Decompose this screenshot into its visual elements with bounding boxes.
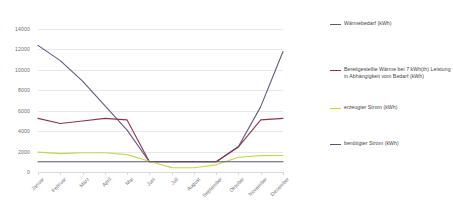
- legend-entry[interactable]: erzeugter Strom (kWh): [330, 104, 452, 111]
- y-axis-tick-label: 10000: [0, 67, 30, 73]
- y-axis-tick-label: 2000: [0, 149, 30, 155]
- legend-color-swatch: [330, 70, 341, 71]
- x-axis-tick: [216, 172, 217, 175]
- x-axis-tick: [149, 172, 150, 175]
- x-axis-tick: [261, 172, 262, 175]
- legend-color-swatch: [330, 24, 341, 25]
- y-axis-tick-label: 14000: [0, 26, 30, 32]
- y-axis-tick-label: 6000: [0, 108, 30, 114]
- x-axis-tick: [83, 172, 84, 175]
- x-axis-tick: [283, 172, 284, 175]
- x-axis-tick: [38, 172, 39, 175]
- x-axis-tick: [60, 172, 61, 175]
- legend-label: benötigter Strom (kWh): [344, 140, 452, 147]
- legend-entry[interactable]: Wärmebedarf (kWh): [330, 20, 452, 27]
- series-line: [38, 118, 283, 161]
- series-lines: [38, 29, 283, 172]
- x-axis-tick: [172, 172, 173, 175]
- x-axis-tick: [194, 172, 195, 175]
- x-axis-tick: [105, 172, 106, 175]
- legend-label: Wärmebedarf (kWh): [344, 20, 452, 27]
- legend-label: erzeugter Strom (kWh): [344, 104, 452, 111]
- legend-color-swatch: [330, 144, 341, 145]
- x-axis-tick: [127, 172, 128, 175]
- y-axis-tick-label: 4000: [0, 128, 30, 134]
- series-line: [38, 45, 283, 161]
- y-axis-tick-label: 8000: [0, 87, 30, 93]
- plot-area: [38, 29, 283, 172]
- series-line: [38, 152, 283, 168]
- legend-color-swatch: [330, 108, 341, 109]
- y-axis-tick-label: 12000: [0, 46, 30, 52]
- legend-entry[interactable]: Bereitgestellte Wärme bei 7 kWh(th) Leis…: [330, 66, 452, 80]
- line-chart: 02000400060008000100001200014000 JanuarF…: [0, 0, 453, 223]
- y-axis-tick-label: 0: [0, 169, 30, 175]
- legend-entry[interactable]: benötigter Strom (kWh): [330, 140, 452, 147]
- legend-label: Bereitgestellte Wärme bei 7 kWh(th) Leis…: [344, 66, 452, 80]
- x-axis-line: [38, 172, 283, 173]
- x-axis-tick: [238, 172, 239, 175]
